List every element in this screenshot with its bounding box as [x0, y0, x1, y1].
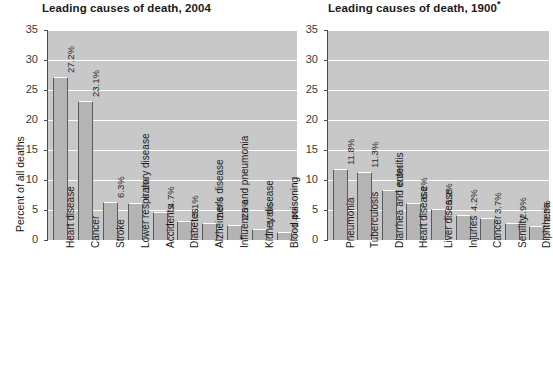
x-category-label: Cancer [90, 216, 101, 248]
y-tick-mark [324, 90, 328, 91]
x-category-label: Senility [517, 216, 528, 248]
x-category-label: Diarrhea and enteritis [394, 152, 405, 248]
x-category-label: Diabetes [189, 209, 200, 248]
figure-two-bar-charts: Leading causes of death, 2004 Percent of… [0, 0, 553, 369]
y-tick-mark [44, 120, 48, 121]
y-tick-label: 35 [292, 23, 318, 35]
y-tick-label: 35 [12, 23, 38, 35]
y-tick-mark [324, 60, 328, 61]
x-category-label: Injuries [468, 216, 479, 248]
x-category-label: Accidents [165, 205, 176, 248]
y-tick-label: 25 [12, 83, 38, 95]
y-tick-label: 30 [292, 53, 318, 65]
gridline [328, 60, 549, 61]
gridline [328, 150, 549, 151]
x-category-label: Kidney disease [264, 180, 275, 248]
y-tick-mark [44, 90, 48, 91]
y-tick-label: 10 [292, 173, 318, 185]
y-tick-label: 15 [12, 143, 38, 155]
y-tick-label: 0 [292, 233, 318, 245]
gridline [328, 90, 549, 91]
x-category-label: Lower respiratory disease [140, 134, 151, 249]
y-tick-mark [44, 60, 48, 61]
x-category-label: Heart disease [418, 186, 429, 248]
chart-title-2004: Leading causes of death, 2004 [42, 2, 211, 14]
y-tick-mark [324, 180, 328, 181]
y-tick-mark [44, 150, 48, 151]
y-tick-label: 20 [12, 113, 38, 125]
y-tick-label: 25 [292, 83, 318, 95]
y-tick-mark [44, 240, 48, 241]
y-tick-mark [324, 210, 328, 211]
x-category-label: Liver disease [443, 189, 454, 248]
x-category-label: Cancer [492, 216, 503, 248]
y-tick-label: 10 [12, 173, 38, 185]
title-footnote-marker: * [497, 0, 501, 9]
gridline [48, 90, 297, 91]
chart-panel-2004: Leading causes of death, 2004 Percent of… [0, 0, 300, 369]
y-tick-mark [44, 210, 48, 211]
x-category-label: Alzheimer's disease [214, 159, 225, 248]
x-category-label: Heart disease [65, 186, 76, 248]
x-category-label: Diphtheria [541, 202, 552, 248]
gridline [328, 30, 549, 31]
y-tick-label: 15 [292, 143, 318, 155]
gridline [48, 60, 297, 61]
bar-value-label: 23.1% [90, 70, 101, 97]
x-category-label: Influenza and pneumonia [239, 136, 250, 248]
x-category-label: Pneumonia [345, 197, 356, 248]
y-tick-label: 5 [12, 203, 38, 215]
bar-value-label: 11.3% [369, 142, 380, 168]
y-tick-mark [324, 120, 328, 121]
gridline [328, 120, 549, 121]
chart-panel-1900: Leading causes of death, 1900* 051015202… [300, 0, 553, 369]
chart-title-1900: Leading causes of death, 1900* [328, 2, 501, 14]
y-tick-label: 30 [12, 53, 38, 65]
bar-value-label: 4.2% [468, 189, 479, 211]
y-tick-label: 5 [292, 203, 318, 215]
y-tick-mark [324, 30, 328, 31]
bar-value-label: 11.8% [345, 139, 356, 165]
gridline [48, 30, 297, 31]
y-tick-label: 20 [292, 113, 318, 125]
bar-value-label: 6.3% [115, 176, 126, 198]
y-tick-mark [324, 150, 328, 151]
y-tick-mark [324, 240, 328, 241]
x-category-label: Tuberculosis [369, 192, 380, 248]
x-category-label: Stroke [115, 219, 126, 248]
bar-value-label: 3.7% [492, 192, 503, 214]
bar-value-label: 27.2% [65, 46, 76, 73]
y-tick-mark [44, 180, 48, 181]
y-tick-mark [44, 30, 48, 31]
y-tick-label: 0 [12, 233, 38, 245]
